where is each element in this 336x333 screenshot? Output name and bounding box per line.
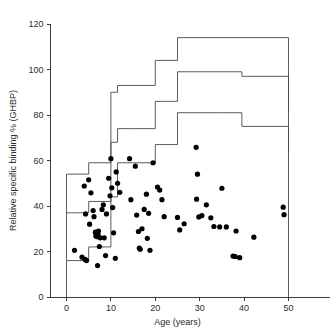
data-point (87, 222, 92, 227)
y-tick-label: 60 (33, 156, 43, 166)
y-axis-title: Relative specific binding % (GHBP) (8, 90, 18, 231)
data-point (91, 214, 96, 219)
data-point (101, 202, 106, 207)
x-tick-label: 30 (195, 303, 205, 313)
data-point (177, 227, 182, 232)
data-point (233, 254, 238, 259)
chart-canvas: 02040608010012001020304050Age (years)Rel… (0, 0, 336, 333)
data-point (113, 256, 118, 261)
data-point (106, 176, 111, 181)
data-point (138, 247, 143, 252)
data-point (86, 177, 91, 182)
data-point (175, 215, 180, 220)
data-point (110, 205, 115, 210)
upper-reference-band (67, 38, 289, 175)
data-point (219, 186, 224, 191)
data-point (159, 197, 164, 202)
x-tick-label: 20 (150, 303, 160, 313)
data-point (147, 248, 152, 253)
data-point (72, 248, 77, 253)
x-axis-title: Age (years) (154, 317, 201, 327)
data-point (83, 211, 88, 216)
data-point (104, 211, 109, 216)
scatter-plot-figure: 02040608010012001020304050Age (years)Rel… (0, 0, 336, 333)
data-point (133, 164, 138, 169)
data-point (182, 221, 187, 226)
data-point (91, 208, 96, 213)
data-point (88, 190, 93, 195)
y-tick-label: 120 (28, 19, 43, 29)
data-point (127, 156, 132, 161)
data-point (82, 183, 87, 188)
data-point (194, 197, 199, 202)
data-point (97, 244, 102, 249)
data-point (204, 202, 209, 207)
data-point (281, 205, 286, 210)
data-point (208, 215, 213, 220)
x-tick-label: 40 (239, 303, 249, 313)
data-point (211, 224, 216, 229)
data-point (195, 172, 200, 177)
data-point (111, 230, 116, 235)
data-point (237, 255, 242, 260)
data-point (251, 235, 256, 240)
y-tick-label: 80 (33, 110, 43, 120)
data-point (224, 224, 229, 229)
data-point (115, 181, 120, 186)
data-point (146, 211, 151, 216)
data-point (102, 235, 107, 240)
y-tick-label: 100 (28, 65, 43, 75)
data-point (217, 224, 222, 229)
data-point (281, 212, 286, 217)
data-points (72, 145, 287, 269)
data-point (128, 197, 133, 202)
x-tick-label: 10 (106, 303, 116, 313)
data-point (142, 207, 147, 212)
data-point (84, 258, 89, 263)
data-point (99, 207, 104, 212)
data-point (134, 213, 139, 218)
data-point (162, 214, 167, 219)
reference-step-curves (67, 38, 289, 297)
data-point (108, 156, 113, 161)
y-tick-label: 20 (33, 247, 43, 257)
y-tick-label: 40 (33, 201, 43, 211)
data-point (107, 193, 112, 198)
data-point (96, 228, 101, 233)
x-tick-label: 0 (64, 303, 69, 313)
data-point (194, 145, 199, 150)
data-point (103, 253, 108, 258)
data-point (144, 192, 149, 197)
data-point (95, 263, 100, 268)
data-point (199, 213, 204, 218)
data-point (150, 160, 155, 165)
x-tick-label: 50 (283, 303, 293, 313)
data-point (139, 226, 144, 231)
data-point (234, 228, 239, 233)
data-point (109, 185, 114, 190)
data-point (114, 169, 119, 174)
data-point (117, 190, 122, 195)
data-point (157, 187, 162, 192)
y-tick-label: 0 (38, 292, 43, 302)
data-point (145, 236, 150, 241)
